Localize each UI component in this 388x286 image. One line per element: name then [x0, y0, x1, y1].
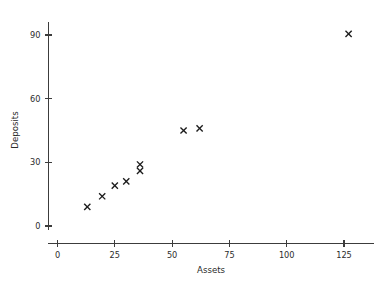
data-point-marker	[197, 125, 203, 131]
x-axis-tick-label: 100	[279, 250, 295, 260]
y-axis-tick-label: 60	[30, 94, 40, 104]
data-point-marker	[112, 183, 118, 189]
scatter-chart: 0306090 0255075100125 Assets Deposits	[0, 0, 388, 286]
y-axis-tick-label: 90	[30, 30, 40, 40]
y-axis-title: Deposits	[10, 111, 20, 149]
y-axis: 0306090	[30, 22, 52, 231]
plot-area: 0306090 0255075100125 Assets Deposits	[0, 0, 388, 286]
x-axis-tick-label: 125	[336, 250, 352, 260]
x-axis-tick-label: 75	[224, 250, 234, 260]
data-point-marker	[137, 161, 143, 167]
x-axis-tick-label: 50	[167, 250, 177, 260]
data-point-marker	[123, 178, 129, 184]
y-axis-tick-label: 30	[30, 157, 40, 167]
x-axis: 0255075100125	[48, 240, 373, 260]
data-point-marker	[345, 31, 351, 37]
data-point-marker	[137, 168, 143, 174]
x-axis-tick-label: 0	[55, 250, 60, 260]
data-point-marker	[180, 127, 186, 133]
x-axis-tick-label: 25	[110, 250, 120, 260]
data-points	[84, 31, 351, 210]
data-point-marker	[84, 204, 90, 210]
data-point-marker	[99, 193, 105, 199]
y-axis-tick-label: 0	[35, 221, 40, 231]
x-axis-title: Assets	[197, 265, 225, 275]
